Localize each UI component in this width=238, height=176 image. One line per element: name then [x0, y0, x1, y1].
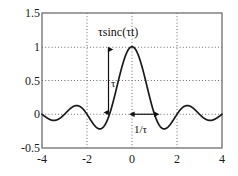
sinc-function-chart: 1.5 1 0.5 0 -0.5 -4 -2 0 2 4 τsinc(τt) τ… — [0, 0, 238, 176]
y-tick-label-1p5: 1.5 — [25, 7, 40, 19]
y-tick-label-0: 0 — [34, 108, 40, 120]
x-tick-label-0: 0 — [129, 153, 135, 165]
y-tick-label-0p5: 0.5 — [25, 75, 40, 87]
x-tick-label-4: 4 — [219, 153, 225, 165]
chart-title-label: τsinc(τt) — [98, 26, 138, 38]
tau-amplitude-label: τ — [111, 78, 115, 89]
inverse-tau-width-label: 1/τ — [134, 124, 147, 135]
y-tick-label-1: 1 — [34, 41, 40, 53]
x-tick-label-2: 2 — [174, 153, 180, 165]
x-tick-label-minus4: -4 — [37, 153, 47, 165]
x-tick-label-minus2: -2 — [82, 153, 92, 165]
